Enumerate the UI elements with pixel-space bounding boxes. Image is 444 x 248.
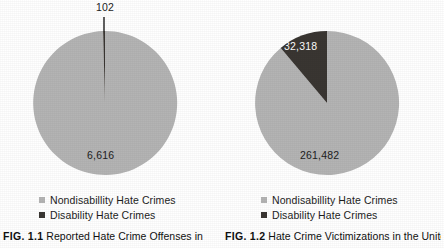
pie-chart-2-svg: [222, 0, 444, 190]
figure-caption-1: FIG. 1.1 Reported Hate Crime Offenses in: [3, 230, 219, 243]
legend-swatch-disability-icon: [39, 212, 45, 218]
pie-chart-1: 102 6,616: [0, 0, 222, 190]
legend-label-nondisability-1: Nondisabillity Hate Crimes: [50, 194, 176, 206]
pie-slice-disability-2-value: 32,318: [284, 40, 317, 52]
legend-label-disability-2: Disability Hate Crimes: [272, 209, 377, 221]
legend-2: Nondisabillity Hate Crimes Disability Ha…: [222, 192, 444, 222]
pie-chart-2: 32,318 261,482: [222, 0, 444, 190]
pie-chart-1-svg: [0, 0, 222, 190]
figure-caption-2-text: Hate Crime Victimizations in the United: [268, 230, 441, 242]
legend-label-nondisability-2: Nondisabillity Hate Crimes: [272, 194, 398, 206]
figure-panel-1: 102 6,616 Nondisabillity Hate Crimes Dis…: [0, 0, 222, 248]
figure-caption-2-tag: FIG. 1.2: [225, 230, 265, 242]
legend-label-disability-1: Disability Hate Crimes: [50, 209, 155, 221]
figure-caption-2: FIG. 1.2 Hate Crime Victimizations in th…: [225, 230, 441, 243]
legend-swatch-disability-icon: [261, 212, 267, 218]
pie-slice-nondisability-2-value: 261,482: [300, 149, 339, 161]
legend-swatch-nondisability-icon: [39, 197, 45, 203]
figure-caption-1-text: Reported Hate Crime Offenses in: [46, 230, 203, 242]
legend-item-nondisability-2: Nondisabillity Hate Crimes: [222, 192, 444, 207]
legend-item-nondisability-1: Nondisabillity Hate Crimes: [0, 192, 222, 207]
legend-1: Nondisabillity Hate Crimes Disability Ha…: [0, 192, 222, 222]
legend-item-disability-1: Disability Hate Crimes: [0, 207, 222, 222]
figure-caption-1-tag: FIG. 1.1: [3, 230, 43, 242]
figure-pair: 102 6,616 Nondisabillity Hate Crimes Dis…: [0, 0, 444, 248]
figure-panel-2: 32,318 261,482 Nondisabillity Hate Crime…: [222, 0, 444, 248]
legend-swatch-nondisability-icon: [261, 197, 267, 203]
legend-item-disability-2: Disability Hate Crimes: [222, 207, 444, 222]
pie-slice-disability-1-value: 102: [96, 1, 114, 13]
pie-slice-nondisability-1-value: 6,616: [87, 149, 114, 161]
